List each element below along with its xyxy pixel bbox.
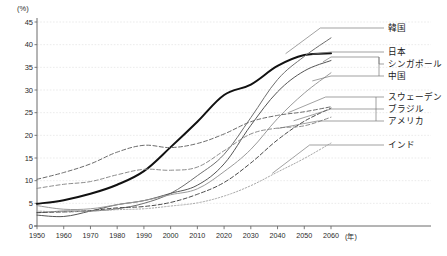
legend-label-日本: 日本: [388, 48, 406, 57]
legend-label-インド: インド: [388, 141, 415, 150]
series-line-日本: [37, 53, 331, 204]
y-axis-tick-label: 45: [11, 18, 33, 27]
y-axis-tick-label: 15: [11, 154, 33, 163]
y-axis-tick-label: 5: [11, 199, 33, 208]
series-line-シンガポール: [37, 61, 331, 217]
legend-label-中国: 中国: [388, 72, 406, 81]
legend-leader-スウェーデン: [288, 97, 384, 113]
legend-leader-インド: [272, 145, 384, 173]
series-line-韓国: [37, 38, 331, 213]
series-line-インド: [37, 143, 331, 212]
y-axis-tick-label: 10: [11, 176, 33, 185]
y-axis-tick-label: 0: [11, 222, 33, 231]
y-axis-tick-label: 40: [11, 40, 33, 49]
legend-leader-韓国: [286, 28, 384, 54]
series-line-アメリカ: [37, 117, 331, 188]
line-chart: (%) 051015202530354045 19501960197019801…: [0, 0, 447, 256]
y-axis-tick-label: 25: [11, 108, 33, 117]
legend-leader-シンガポール: [323, 57, 384, 64]
series-line-スウェーデン: [37, 107, 331, 180]
legend-label-スウェーデン: スウェーデン: [388, 93, 442, 102]
series-line-中国: [37, 73, 331, 210]
y-axis-tick-label: 35: [11, 63, 33, 72]
legend-label-ブラジル: ブラジル: [388, 105, 424, 114]
y-axis-tick-label: 20: [11, 131, 33, 140]
x-axis-unit-label: (年): [345, 231, 357, 241]
chart-canvas: [0, 0, 447, 256]
y-axis-tick-label: 30: [11, 86, 33, 95]
legend-label-シンガポール: シンガポール: [388, 60, 442, 69]
legend-label-アメリカ: アメリカ: [388, 117, 424, 126]
legend-label-韓国: 韓国: [388, 24, 406, 33]
